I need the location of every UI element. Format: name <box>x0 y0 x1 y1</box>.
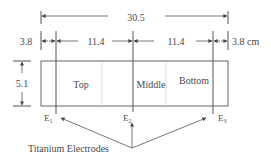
cell-box: Top Middle Bottom <box>41 61 228 106</box>
electrode-lines <box>56 31 213 114</box>
electrode-e1-label: E1 <box>44 113 53 124</box>
right-span-label: 11.4 <box>167 36 184 47</box>
overall-width-label: 30.5 <box>127 12 145 23</box>
region-top-label: Top <box>73 79 88 90</box>
callout-label: Titanium Electrodes <box>28 143 109 154</box>
region-middle-label: Middle <box>137 79 166 90</box>
region-bottom-label: Bottom <box>179 75 209 86</box>
right-margin-label: 3.8 cm <box>232 36 259 47</box>
overall-width-dimension: 30.5 <box>41 11 228 24</box>
electrode-cell-diagram: 30.5 3.8 11.4 11.4 3.8 cm 5.1 Top <box>0 0 271 161</box>
left-margin-label: 3.8 <box>20 36 33 47</box>
height-dimension: 5.1 <box>13 61 31 106</box>
electrode-e2-label: E2 <box>123 113 132 124</box>
height-label: 5.1 <box>16 78 29 89</box>
left-span-label: 11.4 <box>87 36 104 47</box>
electrode-e3-label: E3 <box>218 113 227 124</box>
